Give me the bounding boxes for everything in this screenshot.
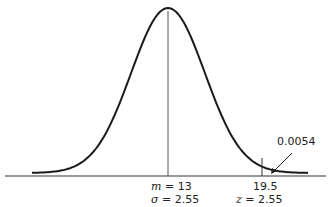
z-symbol: z bbox=[236, 193, 242, 206]
z-value: = 2.55 bbox=[245, 193, 282, 206]
chart-canvas bbox=[0, 0, 334, 207]
sigma-value: = 2.55 bbox=[162, 193, 199, 206]
normal-curve bbox=[32, 8, 308, 173]
mean-label: m = 13 bbox=[151, 181, 192, 193]
annotation-arrow bbox=[273, 153, 292, 172]
mean-value: = 13 bbox=[165, 180, 192, 193]
sigma-symbol: σ bbox=[151, 193, 159, 206]
z-score-label: z = 2.55 bbox=[236, 194, 283, 206]
normal-distribution-figure: m = 13 σ = 2.55 19.5 z = 2.55 0.0054 bbox=[0, 0, 334, 207]
cutoff-x-label: 19.5 bbox=[253, 181, 278, 193]
tail-area-label: 0.0054 bbox=[277, 136, 316, 148]
sigma-label: σ = 2.55 bbox=[151, 194, 199, 206]
mean-symbol: m bbox=[151, 180, 161, 193]
